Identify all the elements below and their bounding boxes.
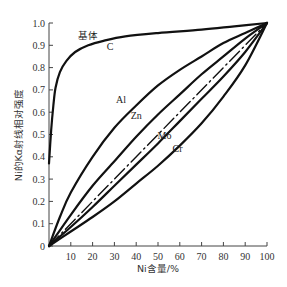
series-label: Zn	[131, 110, 142, 121]
y-tick-label: 0.7	[33, 84, 46, 95]
x-axis-title: Ni含量/%	[137, 263, 179, 274]
y-axis-title: Ni的Kα射线相对强度	[13, 89, 24, 181]
series-label: 基体	[78, 30, 98, 41]
x-tick-label: 40	[131, 251, 141, 262]
y-tick-label: 0.6	[33, 107, 46, 118]
series-label: Al	[116, 94, 126, 105]
series-label: Cr	[173, 143, 184, 154]
x-tick-label: 10	[66, 251, 76, 262]
y-tick-label: 0.4	[33, 151, 46, 162]
series-label: Mo	[158, 130, 172, 141]
chart: 10203040506070809010000.10.20.30.40.50.6…	[0, 0, 287, 287]
y-tick-label: 0.9	[33, 40, 46, 51]
x-tick-label: 50	[153, 251, 163, 262]
y-tick-label: 1.0	[33, 18, 46, 29]
y-tick-label: 0	[40, 241, 45, 252]
y-tick-label: 0.1	[33, 218, 46, 229]
x-tick-label: 90	[240, 251, 250, 262]
y-tick-label: 0.8	[33, 62, 46, 73]
x-tick-label: 60	[175, 251, 185, 262]
x-tick-label: 70	[197, 251, 207, 262]
x-tick-label: 80	[218, 251, 228, 262]
x-tick-label: 100	[260, 251, 275, 262]
y-tick-label: 0.5	[33, 129, 46, 140]
series-labels: 基体CAlZnMoCr	[78, 30, 183, 155]
series-label: C	[107, 41, 114, 52]
y-tick-label: 0.3	[33, 174, 46, 185]
x-tick-label: 30	[109, 251, 119, 262]
y-tick-label: 0.2	[33, 196, 46, 207]
x-tick-label: 20	[88, 251, 98, 262]
